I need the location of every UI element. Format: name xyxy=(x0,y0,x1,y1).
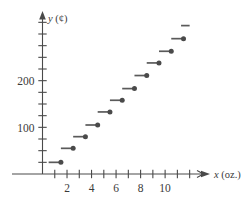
y-tick-label-100: 100 xyxy=(17,122,35,134)
y-axis-group: 100200 xyxy=(17,11,46,174)
x-tick-label-6: 6 xyxy=(113,182,119,194)
x-tick-label-4: 4 xyxy=(89,182,95,194)
step-function-plot: 100200 246810 y (¢) x (oz.) xyxy=(0,0,250,212)
x-axis-group: 246810 xyxy=(12,170,210,194)
x-axis-title: x (oz.) xyxy=(213,169,241,181)
x-tick-label-10: 10 xyxy=(159,182,171,194)
y-axis-title: y (¢) xyxy=(47,13,68,25)
y-axis-tick-labels: 100200 xyxy=(17,75,35,134)
y-tick-label-200: 200 xyxy=(17,75,35,87)
postage-step-function-figure: 100200 246810 y (¢) x (oz.) xyxy=(0,0,250,212)
x-tick-label-2: 2 xyxy=(64,182,70,194)
x-axis-tick-labels: 246810 xyxy=(64,182,171,194)
x-tick-label-8: 8 xyxy=(138,182,144,194)
y-axis-arrow-icon xyxy=(39,11,46,20)
step-function-series xyxy=(49,26,190,165)
